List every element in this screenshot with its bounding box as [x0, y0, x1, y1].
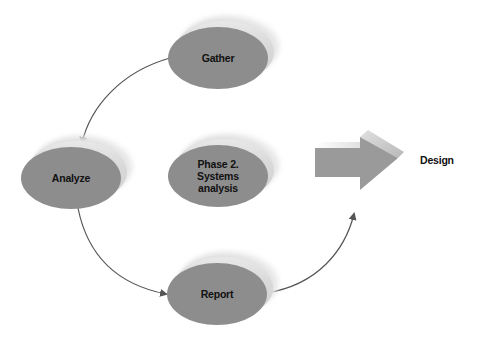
- next-phase-label: Design: [420, 154, 454, 166]
- arrow-analyze-to-report: [78, 208, 166, 294]
- node-label-gather: Gather: [202, 52, 235, 64]
- node-phase-title[interactable]: Phase 2. Systems analysis: [168, 145, 268, 207]
- arrow-report-to-design: [266, 214, 354, 293]
- block-arrow-icon: [315, 130, 404, 190]
- node-analyze[interactable]: Analyze: [21, 147, 121, 209]
- node-ellipse: Analyze: [21, 147, 121, 209]
- node-label-report: Report: [201, 288, 234, 300]
- node-gather[interactable]: Gather: [168, 27, 268, 89]
- node-ellipse: Report: [167, 263, 267, 325]
- arrow-gather-to-analyze: [82, 58, 170, 143]
- cycle-diagram: Gather Analyze Phase 2. Systems analysis…: [0, 0, 479, 338]
- node-ellipse: Phase 2. Systems analysis: [168, 145, 268, 207]
- node-label-phase: Phase 2. Systems analysis: [197, 158, 239, 194]
- node-ellipse: Gather: [168, 27, 268, 89]
- node-label-analyze: Analyze: [52, 172, 90, 184]
- node-report[interactable]: Report: [167, 263, 267, 325]
